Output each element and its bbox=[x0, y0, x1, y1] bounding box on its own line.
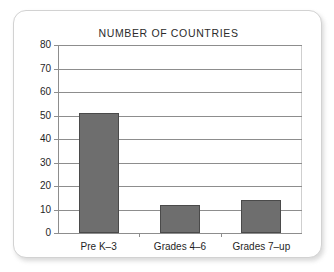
y-tick-mark bbox=[54, 69, 58, 70]
y-tick-mark bbox=[54, 210, 58, 211]
x-category-label: Pre K–3 bbox=[81, 241, 117, 252]
x-tick-mark bbox=[221, 233, 222, 237]
chart-title: NUMBER OF COUNTRIES bbox=[14, 27, 323, 39]
bar bbox=[160, 205, 200, 233]
y-tick-mark bbox=[54, 92, 58, 93]
bar bbox=[79, 113, 119, 233]
y-tick-mark bbox=[54, 45, 58, 46]
y-tick-mark bbox=[54, 233, 58, 234]
chart-card: NUMBER OF COUNTRIES 80706050403020100 Pr… bbox=[13, 10, 322, 258]
bar bbox=[241, 200, 281, 233]
gridline bbox=[58, 92, 302, 93]
x-category-label: Grades 4–6 bbox=[154, 241, 206, 252]
y-tick-label: 40 bbox=[40, 134, 51, 144]
chart-figure: NUMBER OF COUNTRIES 80706050403020100 Pr… bbox=[0, 0, 334, 272]
y-tick-mark bbox=[54, 186, 58, 187]
x-tick-mark bbox=[139, 233, 140, 237]
gridline bbox=[58, 69, 302, 70]
y-tick-label: 70 bbox=[40, 64, 51, 74]
y-tick-label: 50 bbox=[40, 111, 51, 121]
x-category-label: Grades 7–up bbox=[232, 241, 290, 252]
y-tick-label: 0 bbox=[45, 228, 51, 238]
y-tick-mark bbox=[54, 139, 58, 140]
y-tick-mark bbox=[54, 163, 58, 164]
y-tick-label: 30 bbox=[40, 158, 51, 168]
gridline bbox=[58, 45, 302, 46]
y-tick-label: 20 bbox=[40, 181, 51, 191]
x-axis-line bbox=[58, 233, 302, 234]
y-tick-mark bbox=[54, 116, 58, 117]
y-tick-label: 10 bbox=[40, 205, 51, 215]
y-tick-label: 60 bbox=[40, 87, 51, 97]
plot-area: 80706050403020100 Pre K–3Grades 4–6Grade… bbox=[58, 45, 302, 233]
y-tick-label: 80 bbox=[40, 40, 51, 50]
